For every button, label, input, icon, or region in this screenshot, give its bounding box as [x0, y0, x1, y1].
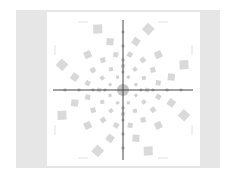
pattern-square — [139, 56, 146, 63]
pattern-square — [132, 66, 138, 72]
pattern-square — [154, 121, 163, 130]
pattern-square — [113, 122, 120, 129]
pattern-square — [133, 108, 138, 113]
pattern-square — [84, 80, 91, 87]
pattern-square — [178, 109, 191, 122]
pattern-square — [155, 80, 161, 86]
pattern-square — [134, 83, 137, 86]
pattern-square — [126, 75, 130, 79]
pattern-square — [155, 93, 162, 100]
pattern-square — [150, 106, 157, 113]
pattern-square — [70, 72, 80, 82]
pattern-square — [179, 60, 188, 69]
pattern-square — [57, 111, 66, 120]
pattern-square — [116, 76, 119, 79]
pattern-square — [108, 108, 114, 114]
pattern-square — [56, 58, 69, 71]
pattern-square — [100, 57, 106, 63]
radial-pattern-canvas — [47, 12, 200, 166]
pattern-square — [126, 51, 133, 58]
pattern-square — [100, 117, 107, 124]
pattern-square — [127, 101, 130, 104]
pattern-square — [116, 101, 120, 105]
pattern-square — [93, 24, 102, 33]
pattern-square — [127, 122, 133, 128]
pattern-square — [91, 145, 104, 158]
pattern-square — [106, 38, 114, 46]
pattern-square — [132, 135, 140, 143]
pattern-square — [141, 99, 147, 105]
pattern-square — [154, 50, 163, 59]
pattern-square — [105, 133, 115, 143]
pattern-square — [168, 73, 176, 81]
pattern-square — [131, 37, 141, 47]
pattern-square — [109, 94, 112, 97]
pattern-square — [142, 23, 155, 36]
pattern-square — [109, 67, 114, 72]
radial-pattern — [47, 12, 200, 166]
pattern-square — [140, 117, 146, 123]
pattern-square — [71, 99, 79, 107]
pattern-square — [90, 107, 96, 113]
pattern-square — [134, 93, 138, 97]
pattern-square — [83, 50, 92, 59]
pattern-square — [113, 52, 119, 58]
pattern-square — [89, 67, 96, 74]
pattern-square — [150, 67, 156, 73]
pattern-square — [85, 94, 91, 100]
pattern-square — [166, 98, 176, 108]
pattern-square — [99, 75, 105, 81]
pattern-square — [83, 121, 92, 130]
pattern-square — [144, 146, 153, 155]
pattern-square — [108, 83, 112, 87]
pattern-square — [141, 76, 146, 81]
pattern-square — [100, 100, 105, 105]
